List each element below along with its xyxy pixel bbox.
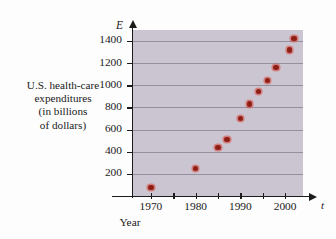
y-axis-arrow-icon <box>129 20 137 28</box>
y-axis-tick-label: 1000 <box>76 78 122 90</box>
data-point <box>215 145 220 150</box>
x-axis-title: Year <box>0 216 336 228</box>
y-axis-tick-label: 600 <box>76 122 122 134</box>
x-axis-tick <box>240 193 241 199</box>
y-axis-tick-label: 800 <box>76 100 122 112</box>
data-point <box>247 101 252 106</box>
x-axis-tick-label: 1990 <box>220 200 260 212</box>
data-point <box>224 137 229 142</box>
data-point <box>265 78 270 83</box>
y-axis-tick <box>127 63 133 64</box>
data-point <box>148 185 153 190</box>
x-axis-tick <box>263 193 264 199</box>
data-point <box>287 47 292 52</box>
x-axis-title-text: Year <box>120 216 141 228</box>
y-axis-tick <box>127 85 133 86</box>
gridline <box>133 85 303 86</box>
y-axis-tick <box>127 107 133 108</box>
x-axis-tick-label: 1980 <box>176 200 216 212</box>
data-point <box>256 89 261 94</box>
y-axis-tick <box>127 41 133 42</box>
y-axis-tick-label: 1200 <box>76 56 122 68</box>
x-axis-arrow-icon <box>309 193 317 201</box>
data-point <box>291 36 296 41</box>
y-axis-tick-label: 1400 <box>76 33 122 45</box>
y-axis-tick-label: 200 <box>76 166 122 178</box>
y-axis-variable-label: E <box>116 19 123 31</box>
gridline <box>133 130 303 131</box>
gridline <box>133 174 303 175</box>
x-axis-variable-label: t <box>321 199 324 211</box>
health-care-expenditure-scatter-figure: U.S. health-care expenditures (in billio… <box>0 0 336 239</box>
x-axis-tick <box>196 193 197 199</box>
y-axis-line <box>132 26 133 198</box>
x-axis-tick <box>173 193 174 199</box>
x-axis-tick <box>285 193 286 199</box>
plot-area <box>133 30 303 196</box>
y-axis-tick-label: 400 <box>76 144 122 156</box>
gridline <box>133 63 303 64</box>
gridline <box>133 107 303 108</box>
y-axis-tick <box>127 174 133 175</box>
y-axis-tick <box>127 130 133 131</box>
y-axis-tick <box>127 152 133 153</box>
gridline <box>133 152 303 153</box>
x-axis-tick-label: 2000 <box>265 200 305 212</box>
x-axis-tick <box>218 193 219 199</box>
x-axis-tick <box>151 193 152 199</box>
gridline <box>133 41 303 42</box>
x-axis-line <box>112 196 310 197</box>
x-axis-tick-label: 1970 <box>131 200 171 212</box>
